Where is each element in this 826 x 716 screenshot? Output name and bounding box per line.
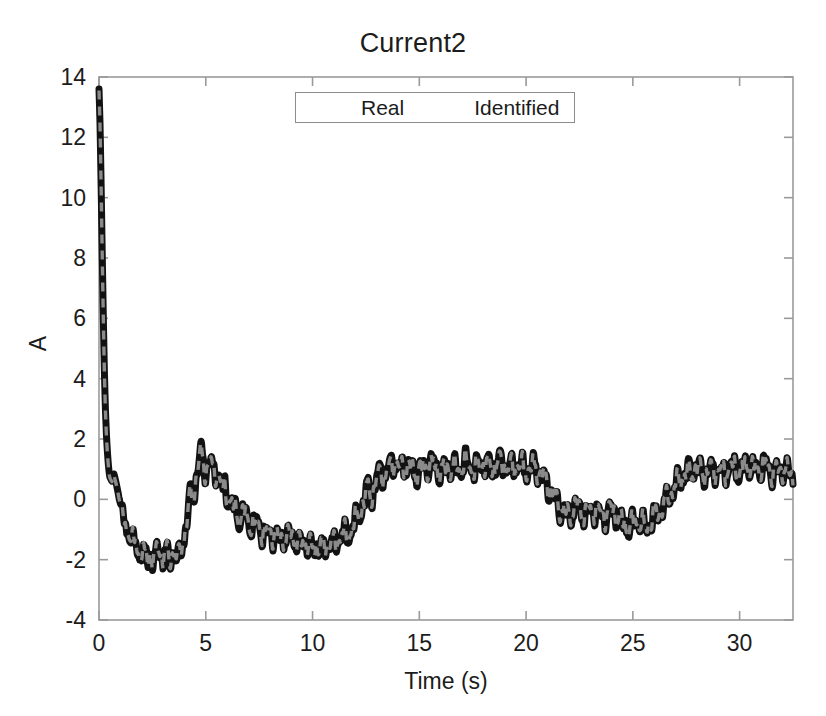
x-tick-label: 20 [513,630,539,657]
y-tick-label: 12 [20,124,86,151]
x-tick-label: 25 [620,630,646,657]
y-tick-label: 14 [20,64,86,91]
x-tick-label: 5 [199,630,212,657]
figure-canvas: Current2 -4-202468101214 051015202530 A … [0,0,826,716]
x-tick-label: 0 [93,630,106,657]
y-tick-marks [99,77,793,620]
y-tick-label: 10 [20,184,86,211]
x-tick-label: 30 [727,630,753,657]
data-series-group [99,89,793,570]
legend-swatch-dashed-icon [418,102,470,114]
y-tick-label: 2 [20,426,86,453]
y-tick-label: -4 [20,607,86,634]
legend-label-identified: Identified [474,96,559,120]
x-tick-marks [99,77,740,620]
x-tick-label: 10 [300,630,326,657]
y-tick-label: 0 [20,486,86,513]
series-line-real [99,89,793,570]
y-tick-label: -2 [20,546,86,573]
legend: Real Identified [295,92,575,123]
y-tick-label: 8 [20,245,86,272]
axes-frame [99,77,793,620]
legend-label-real: Real [361,96,404,120]
y-axis-label: A [25,304,52,384]
legend-entry-real: Real [305,96,418,120]
series-line-identified [99,91,793,569]
axes-box [99,77,793,620]
x-axis-label: Time (s) [99,668,793,695]
legend-entry-identified: Identified [418,96,573,120]
legend-swatch-solid-icon [305,102,357,114]
x-tick-label: 15 [407,630,433,657]
